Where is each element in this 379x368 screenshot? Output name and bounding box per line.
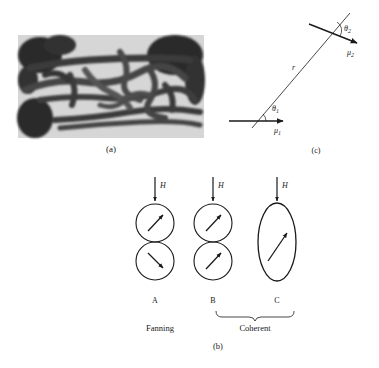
config-c-ellipsoid <box>258 203 296 281</box>
panel-c-label: (c) <box>312 146 321 155</box>
moment-arrow <box>148 253 163 268</box>
mu1-label: μ1 <box>273 126 281 136</box>
field-label-c: H <box>281 181 289 190</box>
r-label: r <box>292 63 296 72</box>
micrograph-photo <box>17 35 205 138</box>
separation-line <box>252 13 350 128</box>
field-arrows <box>155 177 277 201</box>
config-label-b: B <box>210 296 215 305</box>
moment-arrow <box>206 215 221 231</box>
panel-a-label: (a) <box>106 144 116 154</box>
config-label-c: C <box>274 296 279 305</box>
moment-arrow <box>148 215 163 231</box>
fanning-label: Fanning <box>146 323 175 333</box>
field-label-b: H <box>217 181 225 190</box>
moment-arrow <box>268 233 287 261</box>
figure-canvas: (a) r θ1 θ2 μ1 μ2 (c) H H H A B <box>0 0 379 368</box>
theta1-label: θ1 <box>272 104 279 114</box>
panel-b-label: (b) <box>213 341 223 351</box>
theta2-label: θ2 <box>344 24 351 34</box>
config-label-a: A <box>152 296 158 305</box>
mu2-label: μ2 <box>346 48 354 58</box>
coherent-label: Coherent <box>239 323 271 333</box>
field-label-a: H <box>159 181 167 190</box>
moment-arrow <box>206 253 221 269</box>
config-a-spheres <box>136 204 174 280</box>
config-b-spheres <box>194 204 232 280</box>
coherent-brace <box>216 311 294 321</box>
